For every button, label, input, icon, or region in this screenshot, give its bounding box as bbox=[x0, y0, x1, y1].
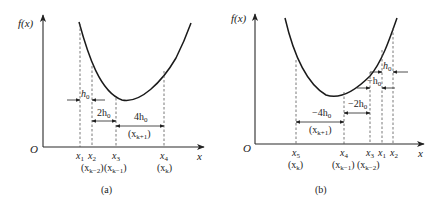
function-curve bbox=[79, 22, 191, 100]
step-h0: h0 bbox=[67, 88, 105, 101]
y-axis-label: f(x) bbox=[18, 17, 34, 30]
panel-b: f(x) x O h0 −h0 −2h0 −4h0 (xk+1) bbox=[231, 12, 424, 196]
svg-text:−h0: −h0 bbox=[367, 75, 382, 88]
tick-x2: x2 bbox=[389, 147, 398, 160]
y-axis-label: f(x) bbox=[231, 12, 247, 25]
tick-labels-b: x5 x4 x3 x1 x2 (xk) (xk−1) (xk−2) bbox=[288, 147, 398, 172]
svg-text:4h0: 4h0 bbox=[134, 111, 148, 124]
figure-canvas: f(x) x O h0 2h0 4h0 (xk+1) x1 x2 bbox=[0, 0, 437, 206]
tick-x4: x4 bbox=[339, 147, 348, 160]
panel-a: f(x) x O h0 2h0 4h0 (xk+1) x1 x2 bbox=[18, 15, 204, 196]
caption-b: (b) bbox=[315, 184, 327, 196]
alias-x3: (xk−1) bbox=[104, 162, 127, 175]
step-4h0: 4h0 (xk+1) bbox=[116, 111, 164, 141]
svg-text:−2h0: −2h0 bbox=[348, 98, 368, 111]
x-axis-label: x bbox=[417, 147, 423, 159]
origin-label: O bbox=[243, 142, 251, 154]
alias-x3: (xk−2) bbox=[357, 159, 380, 172]
alias-x4: (xk−1) bbox=[332, 159, 355, 172]
step-2h0: 2h0 bbox=[92, 107, 116, 121]
alias-x2: (xk−2) bbox=[81, 162, 104, 175]
tick-labels-a: x1 x2 x3 x4 (xk−2) (xk−1) (xk) bbox=[75, 150, 172, 175]
svg-text:2h0: 2h0 bbox=[97, 107, 111, 120]
alias-x4: (xk) bbox=[157, 162, 172, 175]
step-neg-h0: −h0 bbox=[357, 75, 395, 88]
svg-text:h0: h0 bbox=[81, 88, 90, 101]
svg-text:(xk+1): (xk+1) bbox=[309, 124, 332, 137]
svg-text:(xk+1): (xk+1) bbox=[128, 128, 151, 141]
svg-text:h0: h0 bbox=[383, 60, 392, 73]
step-neg-2h0: −2h0 bbox=[344, 98, 370, 113]
origin-label: O bbox=[30, 143, 38, 155]
caption-a: (a) bbox=[101, 184, 112, 196]
step-neg-4h0: −4h0 (xk+1) bbox=[296, 107, 344, 137]
alias-x5: (xk) bbox=[288, 159, 303, 172]
step-h0: h0 bbox=[370, 60, 408, 73]
x-axis-label: x bbox=[196, 150, 202, 162]
svg-text:−4h0: −4h0 bbox=[312, 107, 332, 120]
tick-x3: x3 bbox=[111, 150, 120, 163]
tick-x3: x3 bbox=[365, 147, 374, 160]
